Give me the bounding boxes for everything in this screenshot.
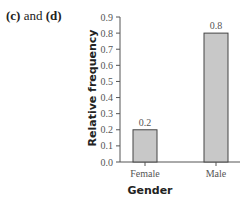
bar-female [133, 130, 157, 162]
x-tick-label: Male [206, 168, 227, 179]
y-tick-label: 0.2 [101, 124, 114, 135]
y-tick-label: 0.1 [101, 140, 114, 151]
y-tick-label: 0.9 [101, 12, 114, 23]
bar-value-label: 0.2 [139, 117, 152, 128]
bar-value-label: 0.8 [210, 20, 223, 31]
y-tick-label: 0.6 [101, 60, 114, 71]
bar-chart: 0.00.10.20.30.40.50.60.70.80.90.2Female0… [0, 0, 252, 201]
y-tick-label: 0.0 [101, 157, 114, 168]
y-tick-label: 0.8 [101, 28, 114, 39]
y-tick-label: 0.4 [101, 92, 114, 103]
y-tick-label: 0.5 [101, 76, 114, 87]
x-tick-label: Female [130, 168, 160, 179]
y-tick-label: 0.3 [101, 108, 114, 119]
y-tick-label: 0.7 [101, 44, 114, 55]
bar-male [204, 33, 228, 162]
